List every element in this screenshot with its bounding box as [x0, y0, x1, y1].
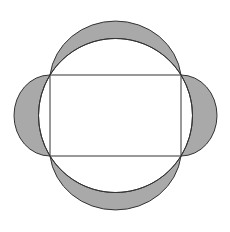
lune-bottom: [50, 156, 181, 210]
lune-right: [181, 75, 217, 156]
lunes-diagram: [0, 0, 230, 232]
inscribed-rectangle: [50, 75, 181, 156]
lune-left: [14, 75, 50, 156]
lune-top: [50, 21, 181, 75]
